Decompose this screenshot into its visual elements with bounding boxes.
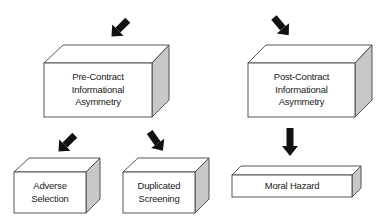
label-adverse-line2: Selection [31,193,68,206]
label-post-line1: Post-Contract [274,71,329,84]
label-pre-line3: Asymmetry [72,96,124,109]
arrow-into-post-contract-icon [268,12,295,40]
arrow-to-moral-hazard-icon [282,128,298,156]
label-post-contract: Post-Contract Informational Asymmetry [248,63,355,117]
label-post-line2: Informational [274,84,329,97]
arrow-to-duplicated-screening-icon [143,127,169,155]
arrow-to-adverse-selection-icon [53,130,81,158]
label-post-line3: Asymmetry [274,96,329,109]
label-moral-hazard: Moral Hazard [232,175,352,197]
label-moral-line1: Moral Hazard [265,180,320,193]
label-duplicated-screening: Duplicated Screening [123,172,195,213]
label-adverse-selection: Adverse Selection [14,172,86,213]
label-pre-line2: Informational [72,84,124,97]
label-duplicated-line2: Screening [138,193,181,206]
label-duplicated-line1: Duplicated [138,180,181,193]
label-pre-line1: Pre-Contract [72,71,124,84]
arrow-into-pre-contract-icon [106,15,134,43]
label-adverse-line1: Adverse [31,180,68,193]
label-pre-contract: Pre-Contract Informational Asymmetry [44,63,152,117]
